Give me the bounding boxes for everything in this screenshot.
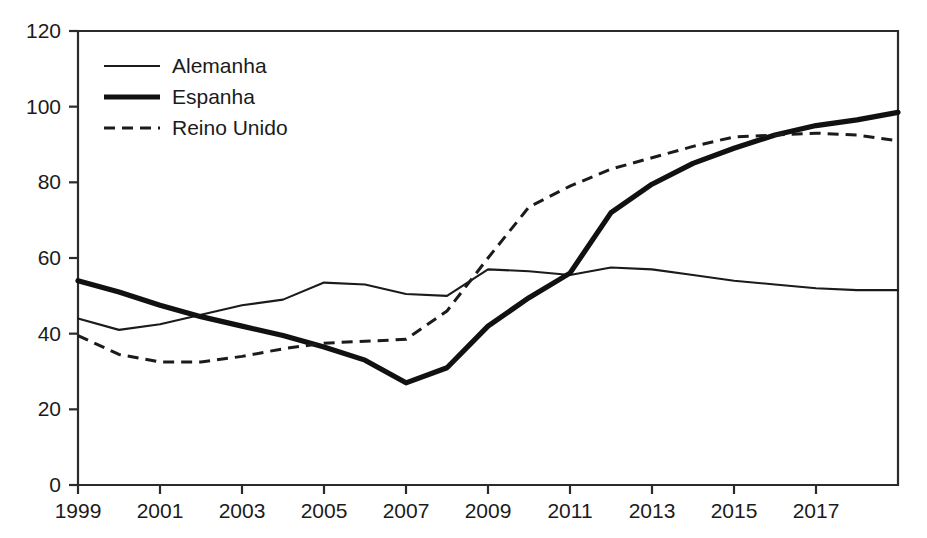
- x-axis-ticks: [78, 485, 816, 494]
- x-tick-label: 2003: [219, 499, 266, 522]
- series-layer: [78, 112, 898, 383]
- y-tick-label: 20: [38, 397, 61, 420]
- y-axis-ticks: [69, 31, 78, 485]
- y-tick-label: 80: [38, 170, 61, 193]
- y-tick-label: 0: [49, 473, 61, 496]
- x-axis-tick-labels: 1999200120032005200720092011201320152017: [55, 499, 840, 522]
- legend-label-alemanha: Alemanha: [172, 54, 267, 77]
- legend: Alemanha Espanha Reino Unido: [104, 54, 288, 139]
- chart-canvas: 020406080100120 199920012003200520072009…: [0, 0, 927, 538]
- line-chart: 020406080100120 199920012003200520072009…: [0, 0, 927, 538]
- x-tick-label: 1999: [55, 499, 102, 522]
- x-tick-label: 2007: [383, 499, 430, 522]
- legend-label-espanha: Espanha: [172, 85, 255, 108]
- x-tick-label: 2009: [465, 499, 512, 522]
- x-tick-label: 2013: [629, 499, 676, 522]
- series-line-espanha: [78, 112, 898, 383]
- y-tick-label: 40: [38, 322, 61, 345]
- y-axis-tick-labels: 020406080100120: [26, 19, 61, 496]
- y-tick-label: 60: [38, 246, 61, 269]
- legend-label-reino-unido: Reino Unido: [172, 116, 288, 139]
- x-tick-label: 2001: [137, 499, 184, 522]
- x-tick-label: 2005: [301, 499, 348, 522]
- x-tick-label: 2017: [793, 499, 840, 522]
- x-tick-label: 2011: [547, 499, 592, 522]
- y-tick-label: 120: [26, 19, 61, 42]
- x-tick-label: 2015: [711, 499, 758, 522]
- y-tick-label: 100: [26, 95, 61, 118]
- series-line-alemanha: [78, 267, 898, 329]
